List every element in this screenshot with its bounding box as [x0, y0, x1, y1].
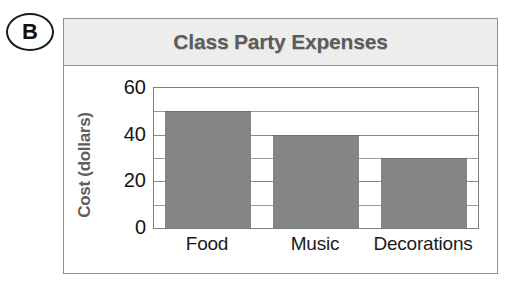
bar-slot [381, 88, 467, 228]
x-axis-label-food: Food [153, 233, 261, 255]
bars-layer [154, 88, 478, 228]
chart-body: Cost (dollars) 0204060 FoodMusicDecorati… [64, 67, 497, 273]
x-axis-label-music: Music [261, 233, 369, 255]
y-axis-tick-label: 60 [124, 77, 146, 97]
chart-container: Class Party Expenses Cost (dollars) 0204… [63, 18, 498, 274]
y-axis-title-text: Cost (dollars) [75, 112, 95, 217]
bar-music [273, 135, 359, 228]
bar-food [165, 111, 251, 228]
y-axis-tick-labels: 0204060 [98, 67, 150, 273]
bar-decorations [381, 158, 467, 228]
y-axis-tick-label: 20 [124, 170, 146, 190]
chart-title-band: Class Party Expenses [64, 19, 497, 66]
bar-slot [165, 88, 251, 228]
x-axis-category-labels: FoodMusicDecorations [153, 233, 479, 265]
y-axis-tick-label: 40 [124, 124, 146, 144]
item-label-b: B [6, 13, 54, 51]
y-axis-title: Cost (dollars) [72, 85, 98, 245]
x-axis-label-decorations: Decorations [369, 233, 477, 255]
item-label-letter: B [6, 13, 54, 51]
y-axis-tick-label: 0 [135, 217, 146, 237]
bar-slot [273, 88, 359, 228]
chart-title: Class Party Expenses [173, 30, 387, 54]
plot-area [153, 87, 479, 229]
